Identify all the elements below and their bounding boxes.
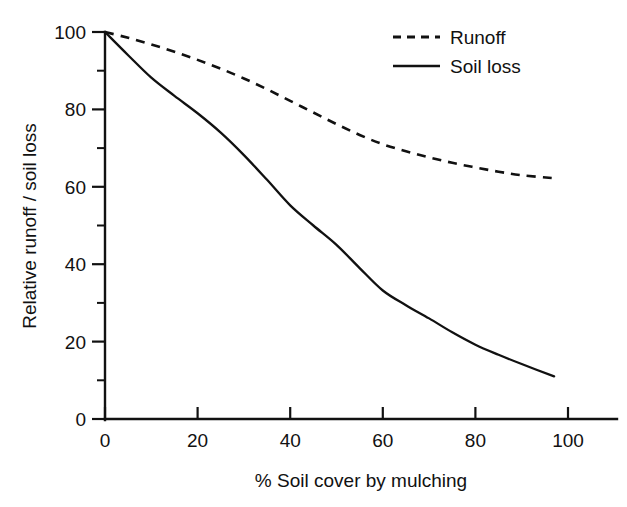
legend-label-soil-loss: Soil loss	[450, 56, 521, 77]
y-tick-label-80: 80	[65, 99, 86, 120]
x-tick-label-40: 40	[280, 430, 301, 451]
x-axis-tick-labels: 020406080100	[100, 430, 584, 451]
x-tick-label-80: 80	[465, 430, 486, 451]
x-axis-ticks	[105, 407, 568, 419]
axes-spines	[105, 32, 617, 420]
series-line-runoff	[105, 32, 554, 178]
chart-legend: RunoffSoil loss	[393, 27, 521, 77]
line-chart: 020406080100 020406080100 % Soil cover b…	[0, 0, 627, 507]
chart-figure: 020406080100 020406080100 % Soil cover b…	[0, 0, 627, 507]
y-axis-title: Relative runoff / soil loss	[19, 123, 40, 329]
x-tick-label-60: 60	[372, 430, 393, 451]
y-tick-label-40: 40	[65, 254, 86, 275]
legend-label-runoff: Runoff	[450, 27, 506, 48]
x-tick-label-20: 20	[187, 430, 208, 451]
y-axis-ticks	[92, 32, 105, 419]
y-tick-label-0: 0	[75, 409, 86, 430]
y-axis-tick-labels: 020406080100	[54, 22, 86, 430]
y-tick-label-60: 60	[65, 177, 86, 198]
y-tick-label-20: 20	[65, 332, 86, 353]
x-tick-label-0: 0	[100, 430, 111, 451]
data-series-group	[105, 32, 554, 376]
x-tick-label-100: 100	[552, 430, 584, 451]
x-axis-title: % Soil cover by mulching	[255, 470, 467, 491]
y-tick-label-100: 100	[54, 22, 86, 43]
series-line-soil-loss	[105, 32, 554, 376]
